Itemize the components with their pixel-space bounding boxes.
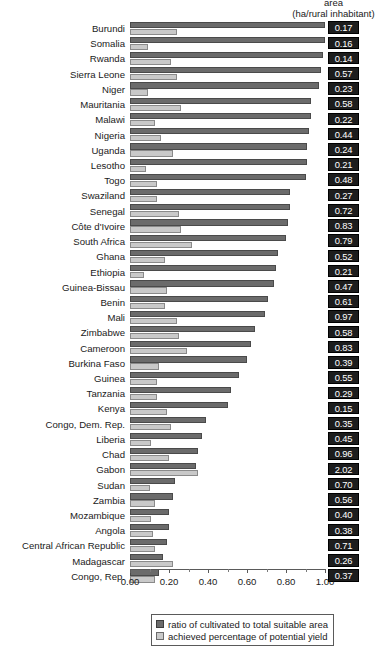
- bar-ratio-cultivated: [130, 143, 307, 149]
- country-label: Sudan: [0, 478, 125, 493]
- bar-row: Burundi0.17: [0, 21, 382, 36]
- bar-ratio-cultivated: [130, 387, 231, 393]
- area-value-badge: 0.61: [328, 295, 359, 308]
- bar-row: Somalia0.16: [0, 36, 382, 51]
- area-value-badge: 0.21: [328, 158, 359, 171]
- bar-row: Benin0.61: [0, 295, 382, 310]
- bar-ratio-cultivated: [130, 52, 323, 58]
- bar-group: [130, 51, 325, 66]
- bar-row: Guinea-Bissau0.47: [0, 280, 382, 295]
- country-label: Ghana: [0, 249, 125, 264]
- x-axis-tick-label: 0.80: [266, 576, 306, 587]
- bar-ratio-cultivated: [130, 296, 268, 302]
- bar-achieved-yield: [130, 394, 157, 400]
- bar-ratio-cultivated: [130, 235, 286, 241]
- bar-achieved-yield: [130, 89, 148, 95]
- bar-group: [130, 538, 325, 553]
- bar-ratio-cultivated: [130, 448, 198, 454]
- bar-ratio-cultivated: [130, 204, 290, 210]
- bar-achieved-yield: [130, 546, 155, 552]
- bar-achieved-yield: [130, 74, 177, 80]
- country-label: Benin: [0, 295, 125, 310]
- value-column-header-line1: area: [285, 0, 382, 8]
- area-value-badge: 0.39: [328, 356, 359, 369]
- bar-achieved-yield: [130, 59, 171, 65]
- bar-row: Niger0.23: [0, 82, 382, 97]
- bar-row: Senegal0.72: [0, 204, 382, 219]
- bar-achieved-yield: [130, 181, 157, 187]
- bar-ratio-cultivated: [130, 509, 169, 515]
- bar-group: [130, 36, 325, 51]
- bar-ratio-cultivated: [130, 372, 239, 378]
- bar-group: [130, 67, 325, 82]
- bar-ratio-cultivated: [130, 311, 265, 317]
- bar-row: Angola0.38: [0, 523, 382, 538]
- x-axis-tick-label: 0.60: [227, 576, 267, 587]
- area-value-badge: 0.22: [328, 113, 359, 126]
- x-axis-tick-label: 0.00: [110, 576, 150, 587]
- country-label: Guinea-Bissau: [0, 280, 125, 295]
- area-value-badge: 0.44: [328, 128, 359, 141]
- bar-group: [130, 219, 325, 234]
- bar-ratio-cultivated: [130, 478, 175, 484]
- area-value-badge: 0.15: [328, 402, 359, 415]
- bar-group: [130, 508, 325, 523]
- bar-row: Cameroon0.83: [0, 341, 382, 356]
- bar-achieved-yield: [130, 272, 144, 278]
- area-value-badge: 0.21: [328, 265, 359, 278]
- legend-swatch-ratio-icon: [156, 620, 164, 628]
- bar-ratio-cultivated: [130, 569, 159, 575]
- bar-ratio-cultivated: [130, 326, 255, 332]
- bar-achieved-yield: [130, 287, 167, 293]
- country-label: Mozambique: [0, 508, 125, 523]
- bar-row: Lesotho0.21: [0, 158, 382, 173]
- area-value-badge: 0.96: [328, 447, 359, 460]
- bar-row: Kenya0.15: [0, 401, 382, 416]
- bar-ratio-cultivated: [130, 356, 247, 362]
- country-label: Nigeria: [0, 128, 125, 143]
- bar-achieved-yield: [130, 150, 173, 156]
- bar-ratio-cultivated: [130, 159, 307, 165]
- legend: ratio of cultivated to total suitable ar…: [151, 614, 334, 646]
- bar-achieved-yield: [130, 303, 165, 309]
- bar-group: [130, 234, 325, 249]
- country-label: Togo: [0, 173, 125, 188]
- bar-row: Uganda0.24: [0, 143, 382, 158]
- bar-achieved-yield: [130, 333, 179, 339]
- x-axis-tick: [247, 569, 248, 573]
- bar-row: Burkina Faso0.39: [0, 356, 382, 371]
- bar-achieved-yield: [130, 424, 171, 430]
- bar-group: [130, 204, 325, 219]
- bar-group: [130, 128, 325, 143]
- area-value-badge: 0.45: [328, 432, 359, 445]
- area-value-badge: 0.71: [328, 539, 359, 552]
- x-axis-minor-tick: [150, 569, 151, 572]
- area-value-badge: 0.38: [328, 524, 359, 537]
- bar-achieved-yield: [130, 440, 151, 446]
- country-label: Sierra Leone: [0, 67, 125, 82]
- bar-achieved-yield: [130, 485, 150, 491]
- country-label: Ethiopia: [0, 265, 125, 280]
- bar-group: [130, 417, 325, 432]
- bar-group: [130, 554, 325, 569]
- legend-label-ratio: ratio of cultivated to total suitable ar…: [168, 619, 328, 630]
- area-value-badge: 0.47: [328, 280, 359, 293]
- x-axis-tick-label: 0.40: [188, 576, 228, 587]
- bar-group: [130, 21, 325, 36]
- bar-ratio-cultivated: [130, 113, 311, 119]
- bar-group: [130, 447, 325, 462]
- bar-row: Swaziland0.27: [0, 188, 382, 203]
- x-axis-tick: [130, 569, 131, 573]
- legend-item-yield: achieved percentage of potential yield: [156, 630, 328, 642]
- country-label: Rwanda: [0, 51, 125, 66]
- area-value-badge: 0.16: [328, 37, 359, 50]
- area-value-badge: 0.83: [328, 219, 359, 232]
- bar-row: Chad0.96: [0, 447, 382, 462]
- bar-row: Côte d'Ivoire0.83: [0, 219, 382, 234]
- country-label: Lesotho: [0, 158, 125, 173]
- area-value-badge: 0.27: [328, 189, 359, 202]
- bar-achieved-yield: [130, 29, 177, 35]
- legend-swatch-yield-icon: [156, 632, 164, 640]
- bar-group: [130, 188, 325, 203]
- bar-group: [130, 356, 325, 371]
